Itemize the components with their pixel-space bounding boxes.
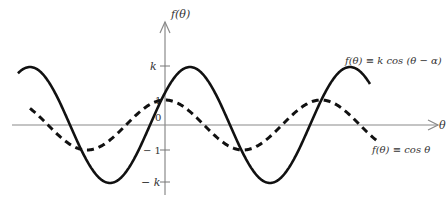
solid-curve-label: f(θ) ≡ k cos (θ − α)	[344, 55, 442, 66]
tick-label-negk: − k	[141, 176, 161, 189]
dashed-curve-label: f(θ) ≡ cos θ	[371, 144, 430, 155]
x-axis-label: θ	[439, 119, 446, 132]
y-axis-label: f(θ)	[170, 8, 190, 21]
chart-canvas: k 1 0 − 1 − k f(θ) θ f(θ) ≡ k cos (θ − α…	[0, 0, 448, 200]
tick-label-neg1: − 1	[143, 145, 161, 156]
tick-label-k: k	[150, 60, 157, 73]
